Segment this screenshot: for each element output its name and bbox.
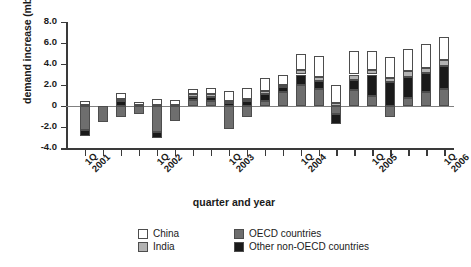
bar-segment — [367, 70, 377, 74]
bar-segment — [349, 90, 359, 106]
bar-segment — [170, 100, 180, 105]
x-tick — [336, 149, 337, 156]
y-tick-label: 4.0 — [44, 57, 57, 68]
legend-item[interactable]: India — [138, 240, 226, 253]
x-tick — [139, 149, 140, 156]
bar-segment — [242, 106, 252, 117]
bar-segment — [421, 73, 431, 92]
bar-segment — [152, 106, 162, 132]
bar-segment — [421, 44, 431, 68]
bar-segment — [170, 106, 180, 121]
legend-label: China — [153, 228, 179, 239]
bar-stack — [80, 22, 90, 148]
bar-segment — [260, 78, 270, 92]
bar-stack — [98, 22, 108, 148]
bar-segment — [367, 51, 377, 70]
bar-segment — [206, 94, 216, 96]
bar-segment — [188, 94, 198, 96]
bar-segment — [314, 81, 324, 89]
bar-segment — [331, 85, 341, 103]
legend-label: OECD countries — [249, 228, 321, 239]
y-tick: -2.0 — [61, 127, 66, 128]
bar-segment — [439, 66, 449, 89]
x-tick — [211, 149, 212, 156]
bar-segment — [224, 103, 234, 106]
legend-item[interactable]: Other non-OECD countries — [234, 240, 398, 253]
bar-segment — [331, 103, 341, 106]
bar-segment — [296, 75, 306, 86]
bar-stack — [403, 22, 413, 148]
y-tick: 0 — [61, 106, 66, 107]
bar-segment — [367, 75, 377, 96]
bar-stack — [439, 22, 449, 148]
bar-segment — [385, 82, 395, 106]
bar-segment — [403, 98, 413, 106]
x-tick — [426, 149, 427, 156]
bar-segment — [314, 77, 324, 81]
bar-segment — [367, 96, 377, 107]
bar-segment — [206, 101, 216, 106]
legend-item[interactable]: China — [138, 227, 226, 240]
bar-segment — [349, 80, 359, 91]
bar-segment — [224, 91, 234, 100]
bar-segment — [278, 92, 288, 106]
bar-segment — [439, 37, 449, 60]
y-tick-label: -2.0 — [41, 120, 57, 131]
bar-stack — [349, 22, 359, 148]
bar-stack — [116, 22, 126, 148]
legend-swatch-icon — [234, 229, 244, 239]
bar-segment — [421, 92, 431, 106]
bar-segment — [385, 57, 395, 78]
bar-stack — [188, 22, 198, 148]
bar-segment — [278, 75, 288, 86]
bar-stack — [152, 22, 162, 148]
x-tick — [354, 149, 355, 156]
bar-segment — [242, 99, 252, 101]
bar-stack — [385, 22, 395, 148]
bar-stack — [242, 22, 252, 148]
bar-segment — [188, 97, 198, 100]
legend-label: Other non-OECD countries — [249, 241, 369, 252]
bar-stack — [170, 22, 180, 148]
bar-segment — [385, 78, 395, 82]
y-tick: 8.0 — [61, 22, 66, 23]
bar-segment — [152, 105, 162, 107]
bar-stack — [260, 22, 270, 148]
y-tick-label: 8.0 — [44, 15, 57, 26]
bar-segment — [331, 114, 341, 123]
bar-segment — [260, 94, 270, 100]
bar-segment — [206, 88, 216, 94]
bar-segment — [80, 130, 90, 136]
bar-segment — [224, 101, 234, 103]
bar-segment — [116, 101, 126, 106]
bar-segment — [331, 106, 341, 114]
x-tick — [408, 149, 409, 156]
y-tick-label: 2.0 — [44, 78, 57, 89]
bar-segment — [421, 68, 431, 73]
legend-item[interactable]: OECD countries — [234, 227, 398, 240]
bar-segment — [403, 49, 413, 71]
y-tick: 2.0 — [61, 85, 66, 86]
bar-segment — [188, 100, 198, 106]
x-tick — [265, 149, 266, 156]
bar-segment — [403, 71, 413, 76]
bar-segment — [349, 51, 359, 74]
bar-segment — [134, 102, 144, 105]
bar-segment — [403, 77, 413, 98]
bar-segment — [134, 105, 144, 107]
bar-segment — [224, 106, 234, 129]
bar-stack — [224, 22, 234, 148]
bar-segment — [116, 99, 126, 101]
bar-stack — [367, 22, 377, 148]
bar-segment — [152, 99, 162, 105]
bar-segment — [242, 101, 252, 106]
x-tick — [283, 149, 284, 156]
x-axis-title: quarter and year — [0, 196, 468, 208]
y-axis-line — [66, 22, 68, 149]
bar-segment — [116, 93, 126, 98]
legend-swatch-icon — [234, 242, 244, 252]
x-tick — [193, 149, 194, 156]
bar-segment — [188, 89, 198, 94]
y-axis-title: demand increase (mbd) — [21, 0, 33, 121]
